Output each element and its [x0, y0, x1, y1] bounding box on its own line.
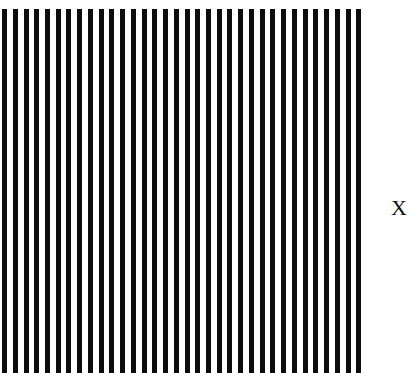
- grating-bar: [45, 9, 50, 373]
- grating-bar: [88, 9, 93, 373]
- grating-bar: [142, 9, 147, 373]
- grating-bar: [356, 9, 361, 373]
- grating-bar: [313, 9, 318, 373]
- grating-bar: [227, 9, 232, 373]
- grating-bar: [303, 9, 308, 373]
- grating-bar: [163, 9, 168, 373]
- grating-bar: [66, 9, 71, 373]
- grating-bar: [281, 9, 286, 373]
- grating-bar: [206, 9, 211, 373]
- grating-bar: [34, 9, 39, 373]
- grating-bar: [174, 9, 179, 373]
- grating-bar: [195, 9, 200, 373]
- grating-bar: [249, 9, 254, 373]
- grating-bar: [152, 9, 157, 373]
- grating-bar: [109, 9, 114, 373]
- grating-bar: [346, 9, 351, 373]
- grating-bar: [260, 9, 265, 373]
- grating-bar: [131, 9, 136, 373]
- x-label: X: [391, 197, 407, 219]
- grating-bar: [217, 9, 222, 373]
- grating-bar: [120, 9, 125, 373]
- grating-bar: [13, 9, 18, 373]
- grating-bar: [2, 9, 7, 373]
- grating-bar: [238, 9, 243, 373]
- grating-bar: [324, 9, 329, 373]
- grating-bar: [292, 9, 297, 373]
- grating-bar: [99, 9, 104, 373]
- grating-bar: [185, 9, 190, 373]
- grating-bar: [270, 9, 275, 373]
- grating-bar: [335, 9, 340, 373]
- grating-bar: [56, 9, 61, 373]
- grating-bar: [77, 9, 82, 373]
- grating-panel: [2, 9, 367, 373]
- grating-bar: [24, 9, 29, 373]
- figure-root: X: [0, 0, 412, 373]
